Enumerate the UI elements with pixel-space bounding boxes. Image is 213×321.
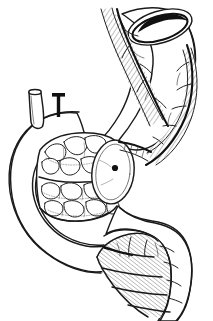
figure-root: Surgical anatomy line drawing [0, 0, 213, 321]
medical-illustration-canvas: Surgical anatomy line drawing [0, 0, 213, 321]
cross-section-lumen-dot [112, 165, 118, 171]
clip-marker-stem [57, 95, 60, 117]
tube-stub-open-top [29, 89, 41, 94]
tube-stub [29, 89, 44, 128]
